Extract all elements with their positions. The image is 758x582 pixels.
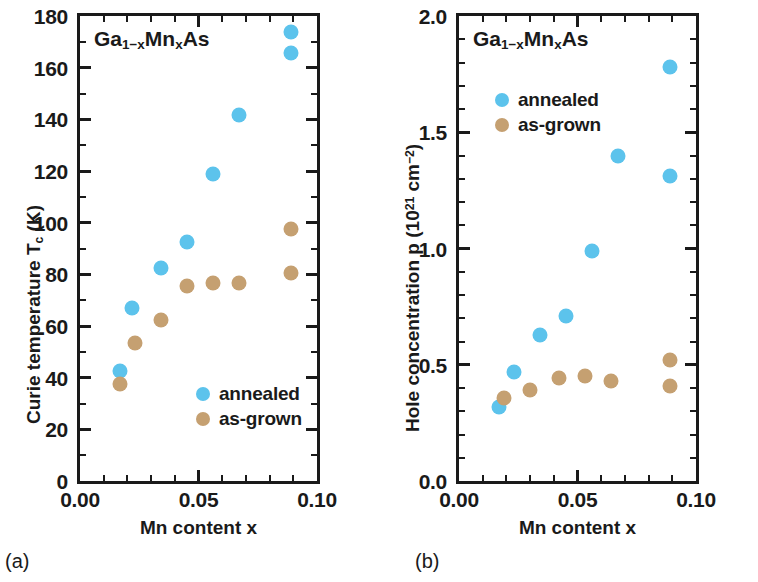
x-minor-tick <box>482 16 484 22</box>
y-tick-label: 160 <box>34 57 68 78</box>
y-tick-label: 120 <box>34 161 68 182</box>
figure-root: 020406080100120140160180 Ga1−xMnxAs anne… <box>0 0 758 582</box>
data-point-as-grown <box>179 278 194 293</box>
y-tick-label: 1.5 <box>419 122 447 143</box>
data-point-annealed <box>205 166 220 181</box>
y-minor-tick <box>690 85 696 87</box>
x-minor-tick <box>269 475 271 481</box>
x-minor-tick <box>245 16 247 22</box>
y-major-tick <box>685 247 696 250</box>
panel-b-yaxis-title: Hole concentration p (1021 cm−2) <box>403 144 422 432</box>
y-minor-tick <box>311 41 317 43</box>
y-minor-tick <box>459 85 465 87</box>
y-minor-tick <box>459 410 465 412</box>
data-point-annealed <box>179 235 194 250</box>
x-minor-tick <box>624 475 626 481</box>
x-minor-tick <box>600 16 602 22</box>
y-tick-label: 2.0 <box>419 6 447 27</box>
y-tick-label: 140 <box>34 109 68 130</box>
y-major-tick <box>306 273 317 276</box>
data-point-as-grown <box>231 276 246 291</box>
legend-label-as-grown: as-grown <box>518 115 601 134</box>
data-point-annealed <box>125 300 140 315</box>
data-point-as-grown <box>205 276 220 291</box>
data-point-annealed <box>532 327 547 342</box>
y-major-tick <box>306 428 317 431</box>
y-major-tick <box>80 118 91 121</box>
y-minor-tick <box>459 38 465 40</box>
y-minor-tick <box>690 410 696 412</box>
data-point-annealed <box>506 364 521 379</box>
x-minor-tick <box>174 475 176 481</box>
x-minor-tick <box>505 475 507 481</box>
panel-a-inplot-formula: Ga1−xMnxAs <box>94 28 209 51</box>
y-major-tick <box>306 118 317 121</box>
y-minor-tick <box>80 93 86 95</box>
y-major-tick <box>80 428 91 431</box>
panel-a: 020406080100120140160180 Ga1−xMnxAs anne… <box>0 0 379 582</box>
y-minor-tick <box>311 351 317 353</box>
panel-b-xtick-labels: 0.000.050.10 <box>456 489 699 517</box>
y-minor-tick <box>690 294 696 296</box>
data-point-as-grown <box>523 383 538 398</box>
data-point-as-grown <box>577 369 592 384</box>
data-point-as-grown <box>283 266 298 281</box>
y-minor-tick <box>311 299 317 301</box>
y-minor-tick <box>690 387 696 389</box>
x-minor-tick <box>245 475 247 481</box>
legend-label-annealed: annealed <box>219 384 300 403</box>
y-minor-tick <box>690 155 696 157</box>
data-point-annealed <box>662 169 677 184</box>
x-minor-tick <box>529 475 531 481</box>
x-minor-tick <box>553 16 555 22</box>
x-minor-tick <box>150 16 152 22</box>
y-major-tick <box>685 363 696 366</box>
x-tick-label: 0.10 <box>297 489 337 510</box>
data-point-as-grown <box>283 222 298 237</box>
x-minor-tick <box>671 475 673 481</box>
legend-item-as-grown: as-grown <box>495 115 601 134</box>
data-point-as-grown <box>662 378 677 393</box>
legend-item-annealed: annealed <box>196 384 302 403</box>
y-minor-tick <box>311 144 317 146</box>
data-point-annealed <box>283 24 298 39</box>
y-major-tick <box>80 170 91 173</box>
x-minor-tick <box>103 475 105 481</box>
y-minor-tick <box>459 294 465 296</box>
y-minor-tick <box>690 434 696 436</box>
x-tick-label: 0.10 <box>676 489 716 510</box>
x-minor-tick <box>505 16 507 22</box>
x-minor-tick <box>529 16 531 22</box>
x-minor-tick <box>482 475 484 481</box>
data-point-as-grown <box>603 374 618 389</box>
y-minor-tick <box>690 201 696 203</box>
panel-b-plot-area: Ga1−xMnxAs annealed as-grown <box>456 13 699 484</box>
x-tick-label: 0.05 <box>179 489 219 510</box>
data-point-annealed <box>231 108 246 123</box>
y-minor-tick <box>459 457 465 459</box>
y-major-tick <box>306 221 317 224</box>
x-minor-tick <box>126 475 128 481</box>
data-point-as-grown <box>127 335 142 350</box>
panel-b: 0.00.51.01.52.0 Ga1−xMnxAs annealed as-g… <box>379 0 758 582</box>
y-tick-label: 40 <box>45 367 68 388</box>
y-minor-tick <box>690 224 696 226</box>
data-point-annealed <box>492 399 507 414</box>
y-major-tick <box>306 66 317 69</box>
x-minor-tick <box>221 475 223 481</box>
y-major-tick <box>306 325 317 328</box>
data-point-as-grown <box>497 391 512 406</box>
y-minor-tick <box>459 224 465 226</box>
panel-b-legend: annealed as-grown <box>495 90 601 134</box>
panel-a-yaxis-title: Curie temperature Tc (K) <box>24 205 45 424</box>
data-point-as-grown <box>113 377 128 392</box>
legend-swatch-as-grown <box>196 412 210 426</box>
panel-a-plot-area: Ga1−xMnxAs annealed as-grown <box>77 13 320 484</box>
data-point-annealed <box>153 260 168 275</box>
y-minor-tick <box>311 93 317 95</box>
y-major-tick <box>685 131 696 134</box>
y-minor-tick <box>459 62 465 64</box>
legend-swatch-annealed <box>196 387 210 401</box>
panel-a-xtick-labels: 0.000.050.10 <box>77 489 320 517</box>
data-point-annealed <box>283 46 298 61</box>
